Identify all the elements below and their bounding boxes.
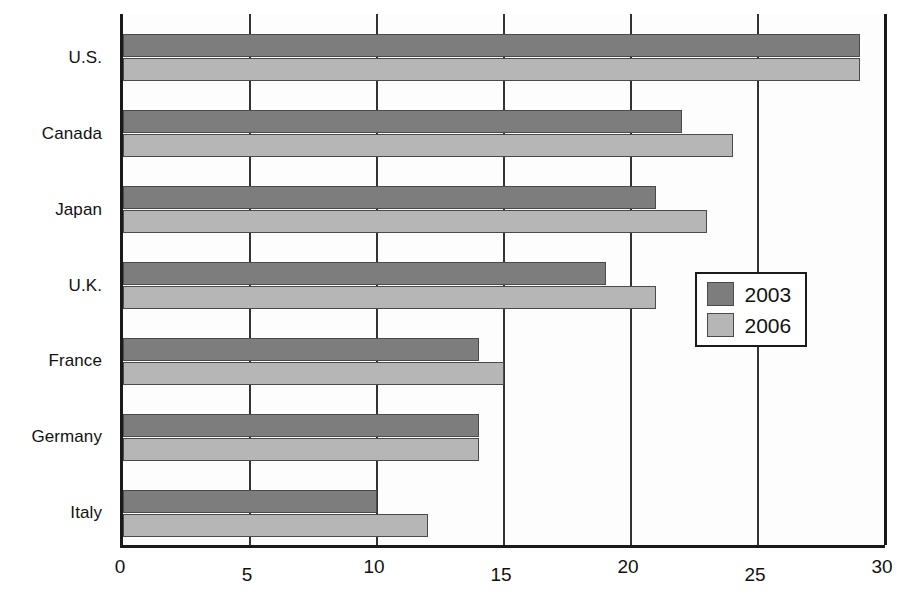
bar-group (123, 34, 885, 81)
y-axis-label-germany: Germany (0, 428, 102, 445)
plot-inner: 20032006 (123, 14, 885, 545)
x-tick-5: 5 (242, 564, 253, 586)
bar (123, 210, 707, 233)
x-tick-10: 10 (363, 556, 384, 578)
bar (123, 514, 428, 537)
legend-item-2006[interactable]: 2006 (707, 313, 792, 337)
bar-chart: U.S.CanadaJapanU.K.FranceGermanyItaly 20… (0, 0, 915, 609)
y-axis-label-japan: Japan (0, 201, 102, 218)
bar (123, 338, 479, 361)
legend-swatch-icon (707, 282, 734, 306)
plot-area: 20032006 (120, 14, 885, 548)
bar-group (123, 490, 885, 537)
y-axis-label-france: France (0, 352, 102, 369)
legend-label: 2003 (745, 284, 792, 305)
bar (123, 110, 682, 133)
bar (123, 490, 377, 513)
bar (123, 362, 504, 385)
bar (123, 262, 606, 285)
bar-group (123, 186, 885, 233)
x-tick-30: 30 (871, 556, 892, 578)
bar (123, 286, 656, 309)
y-axis-label-us: U.S. (0, 49, 102, 66)
x-tick-0: 0 (115, 556, 126, 578)
y-axis-category-labels: U.S.CanadaJapanU.K.FranceGermanyItaly (0, 14, 110, 545)
x-axis-tick-labels: 051015202530 (120, 556, 885, 586)
bar (123, 58, 860, 81)
bar-group (123, 110, 885, 157)
bar (123, 134, 733, 157)
x-tick-15: 15 (490, 564, 511, 586)
y-axis-label-italy: Italy (0, 504, 102, 521)
y-axis-label-canada: Canada (0, 125, 102, 142)
y-axis-label-uk: U.K. (0, 277, 102, 294)
legend: 20032006 (695, 272, 808, 347)
x-tick-25: 25 (744, 564, 765, 586)
bar (123, 186, 656, 209)
bar-group (123, 414, 885, 461)
legend-item-2003[interactable]: 2003 (707, 282, 792, 306)
bar (123, 34, 860, 57)
bar (123, 414, 479, 437)
x-tick-20: 20 (617, 556, 638, 578)
legend-swatch-icon (707, 313, 734, 337)
legend-label: 2006 (745, 315, 792, 336)
bar (123, 438, 479, 461)
